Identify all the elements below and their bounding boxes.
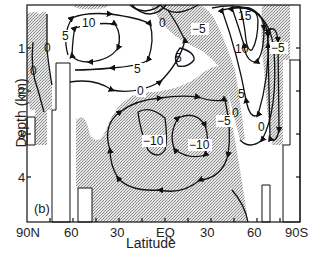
contour-label: −5 xyxy=(271,41,285,55)
contour-label: 10 xyxy=(82,16,96,30)
contour-label: 0 xyxy=(30,64,37,78)
x-tick-label: 60 xyxy=(64,226,78,239)
contour-label: 5 xyxy=(175,51,182,65)
contour-label: 0 xyxy=(159,16,166,30)
x-tick-label: 90N xyxy=(16,226,40,239)
contour-label: 10 xyxy=(235,42,249,56)
x-axis-label: Latitude xyxy=(126,235,176,251)
contour-label: 0 xyxy=(137,84,144,98)
contour-label: 5 xyxy=(134,62,141,76)
x-tick-label: 30 xyxy=(200,226,214,239)
contour-label: −10 xyxy=(143,134,164,148)
x-tick-label: 30 xyxy=(110,226,124,239)
streamfunction-figure: 10 5 0 0 5 0 0 −5 5 15 10 −5 5 0 0 −5 −1… xyxy=(0,0,314,253)
contour-label: 0 xyxy=(258,120,265,134)
panel-label: (b) xyxy=(34,201,50,216)
contour-label: 5 xyxy=(62,29,69,43)
contour-label: −5 xyxy=(192,22,206,36)
x-tick-label: 90S xyxy=(285,226,308,239)
contour-label: 5 xyxy=(238,87,245,101)
x-tick-label: 60 xyxy=(247,226,261,239)
contour-label: 15 xyxy=(238,9,252,23)
y-axis-label: Depth (km) xyxy=(13,78,29,147)
contour-label: 0 xyxy=(44,41,51,55)
y-tick-label: 4 xyxy=(18,171,25,184)
contour-label: −5 xyxy=(217,114,231,128)
contour-label: −10 xyxy=(189,138,210,152)
y-tick-label: 1 xyxy=(18,42,25,55)
